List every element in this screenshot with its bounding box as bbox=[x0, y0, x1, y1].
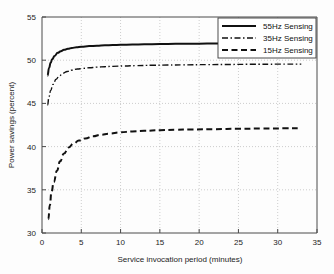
legend-label-35hz-sensing: 35Hz Sensing bbox=[263, 34, 313, 43]
power-savings-line-chart: 05101520253035303540455055 Service invoc… bbox=[0, 0, 334, 274]
x-tick-label-15: 15 bbox=[155, 238, 164, 247]
y-tick-label-50: 50 bbox=[27, 56, 36, 65]
chart-legend[interactable]: 55Hz Sensing35Hz Sensing15Hz Sensing bbox=[218, 18, 316, 58]
y-tick-label-30: 30 bbox=[27, 229, 36, 238]
legend-label-15hz-sensing: 15Hz Sensing bbox=[263, 46, 313, 55]
y-axis-title: Power savings (percent) bbox=[7, 82, 16, 169]
x-tick-label-30: 30 bbox=[273, 238, 282, 247]
x-tick-label-10: 10 bbox=[116, 238, 125, 247]
chart-figure: 05101520253035303540455055 Service invoc… bbox=[0, 0, 334, 274]
y-tick-label-55: 55 bbox=[27, 13, 36, 22]
legend-items: 55Hz Sensing35Hz Sensing15Hz Sensing bbox=[222, 22, 313, 55]
x-tick-label-35: 35 bbox=[313, 238, 322, 247]
x-tick-label-25: 25 bbox=[234, 238, 243, 247]
x-axis-title: Service invocation period (minutes) bbox=[118, 255, 243, 264]
y-tick-label-45: 45 bbox=[27, 99, 36, 108]
y-tick-label-40: 40 bbox=[27, 143, 36, 152]
x-tick-label-5: 5 bbox=[79, 238, 84, 247]
legend-label-55hz-sensing: 55Hz Sensing bbox=[263, 22, 313, 31]
x-tick-label-0: 0 bbox=[40, 238, 45, 247]
x-tick-label-20: 20 bbox=[195, 238, 204, 247]
y-tick-label-35: 35 bbox=[27, 186, 36, 195]
